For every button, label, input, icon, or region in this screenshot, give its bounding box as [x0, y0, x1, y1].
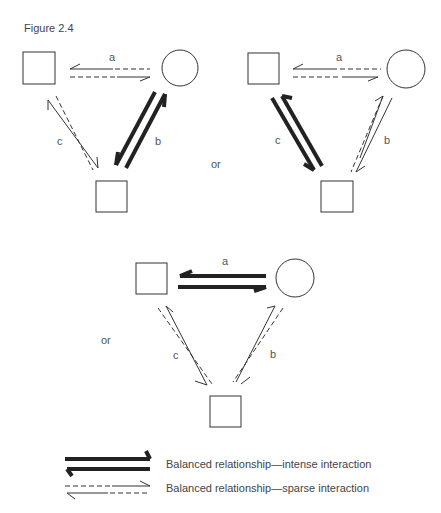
diagram-top-right	[248, 50, 425, 212]
relation-b-intense	[116, 92, 165, 168]
relation-a-sparse	[293, 64, 381, 81]
legend-sparse-symbol	[65, 481, 150, 499]
label-c: c	[275, 134, 281, 146]
connector-or: or	[101, 334, 111, 346]
label-a: a	[109, 51, 115, 63]
label-c: c	[57, 135, 63, 147]
connector-or: or	[211, 158, 221, 170]
relation-a-intense	[178, 271, 266, 291]
square-node	[210, 396, 241, 427]
relation-b-sparse	[233, 306, 283, 384]
square-node	[23, 52, 55, 84]
square-node	[321, 181, 353, 212]
square-node	[136, 263, 167, 294]
label-a: a	[222, 255, 228, 267]
relation-c-sparse	[48, 96, 98, 170]
label-b: b	[270, 348, 276, 360]
legend-intense-symbol	[65, 451, 150, 476]
relation-a-sparse	[70, 64, 150, 81]
label-c: c	[173, 349, 179, 361]
circle-node	[162, 50, 198, 86]
label-a: a	[336, 51, 342, 63]
square-node	[96, 181, 127, 212]
diagram-top-left	[23, 50, 198, 212]
circle-node	[276, 259, 314, 297]
square-node	[248, 53, 279, 84]
relation-c-sparse	[158, 306, 212, 385]
figure-canvas	[0, 0, 441, 513]
figure-title: Figure 2.4	[24, 22, 74, 34]
label-b: b	[384, 134, 390, 146]
diagram-bottom	[136, 259, 314, 427]
legend-sparse-label: Balanced relationship—sparse interaction	[166, 482, 369, 494]
legend-intense-label: Balanced relationship—intense interactio…	[166, 458, 371, 470]
label-b: b	[155, 135, 161, 147]
circle-node	[387, 50, 425, 88]
relation-c-intense	[272, 96, 322, 170]
